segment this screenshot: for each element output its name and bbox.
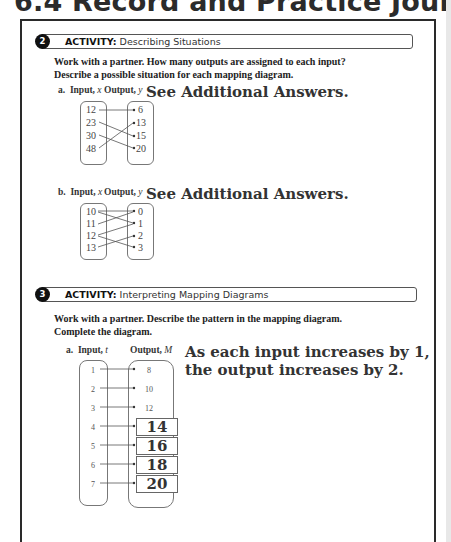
input-header: Input, — [70, 187, 95, 197]
output-value: 20 — [136, 143, 146, 154]
input-value: 4 — [91, 422, 95, 433]
part-a-label: a. Input, x — [58, 85, 102, 95]
output-value: 15 — [136, 130, 146, 141]
input-value: 12 — [86, 230, 96, 241]
activity-label: ACTIVITY: — [65, 36, 117, 47]
input-variable: t — [105, 345, 108, 355]
filled-output-box: 16 — [136, 437, 178, 455]
output-variable: y — [138, 85, 142, 95]
page-title: 6.4 Record and Practice Journal — [14, 0, 451, 17]
activity-3-header: ACTIVITY: Interpreting Mapping Diagrams — [40, 287, 417, 302]
output-variable: M — [164, 345, 172, 355]
filled-output-box: 20 — [136, 475, 178, 493]
part-letter: b. — [58, 187, 66, 197]
part-letter: a. — [58, 85, 65, 95]
part-a-label: a. Input, t — [66, 345, 108, 355]
input-header: Input, — [78, 345, 103, 355]
output-value: 1 — [138, 218, 143, 229]
activity-title: Describing Situations — [120, 36, 221, 47]
output-value: 0 — [138, 206, 143, 217]
given-output-value: 10 — [145, 384, 153, 395]
instruction-line: Describe a possible situation for each m… — [54, 68, 346, 81]
input-value: 1 — [91, 365, 95, 376]
output-value: 3 — [138, 242, 143, 253]
input-value: 12 — [86, 104, 96, 115]
output-header-b: Output, y — [104, 187, 143, 197]
output-value: 13 — [136, 117, 146, 128]
input-value: 3 — [91, 403, 95, 414]
activity-2-instructions: Work with a partner. How many outputs ar… — [54, 55, 346, 81]
answer-text: See Additional Answers. — [146, 185, 349, 203]
input-value: 23 — [86, 117, 96, 128]
input-value: 10 — [86, 206, 96, 217]
input-value: 6 — [91, 460, 95, 471]
input-value: 13 — [86, 242, 96, 253]
output-variable: y — [138, 187, 142, 197]
input-value: 5 — [91, 441, 95, 452]
answer-line: As each input increases by 1, — [185, 343, 430, 361]
given-output-value: 12 — [145, 403, 153, 414]
activity-number-badge: 2 — [35, 34, 50, 49]
answer-line: the output increases by 2. — [185, 361, 404, 379]
part-letter: a. — [66, 345, 73, 355]
output-header: Output, — [104, 187, 136, 197]
activity-title: Interpreting Mapping Diagrams — [120, 289, 269, 300]
given-output-value: 8 — [147, 365, 151, 376]
activity-number-badge: 3 — [35, 287, 50, 302]
part-b-label: b. Input, x — [58, 187, 102, 197]
activity-3-instructions: Work with a partner. Describe the patter… — [54, 312, 342, 338]
filled-output-box: 18 — [136, 456, 178, 474]
output-header: Output, M — [130, 345, 172, 355]
input-variable: x — [98, 187, 102, 197]
instruction-line: Complete the diagram. — [54, 325, 342, 338]
input-value: 11 — [86, 218, 96, 229]
input-value: 48 — [86, 143, 96, 154]
output-header: Output, — [130, 345, 162, 355]
filled-output-box: 14 — [136, 418, 178, 436]
activity-label: ACTIVITY: — [65, 289, 117, 300]
input-variable: x — [97, 85, 101, 95]
instruction-line: Work with a partner. How many outputs ar… — [54, 55, 346, 68]
instruction-line: Work with a partner. Describe the patter… — [54, 312, 342, 325]
input-header: Input, — [70, 85, 95, 95]
scrollbar-track[interactable] — [446, 0, 451, 542]
activity-2-header: ACTIVITY: Describing Situations — [40, 34, 413, 49]
input-value: 7 — [91, 479, 95, 490]
input-value: 2 — [91, 384, 95, 395]
output-value: 6 — [138, 104, 143, 115]
answer-text: See Additional Answers. — [146, 83, 349, 101]
output-header: Output, — [104, 85, 136, 95]
output-value: 2 — [138, 230, 143, 241]
input-value: 30 — [86, 130, 96, 141]
output-header-a: Output, y — [104, 85, 143, 95]
